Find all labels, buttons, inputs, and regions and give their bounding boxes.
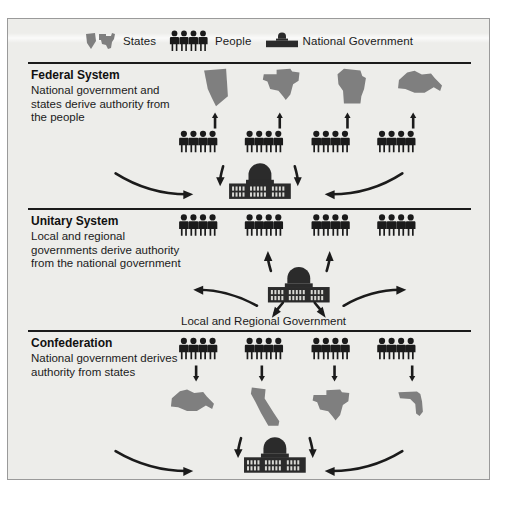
arrowhead-c2 <box>234 449 242 458</box>
section-title-confederation: Confederation <box>31 336 181 351</box>
state-newyork-conf <box>171 389 214 411</box>
arrowhead-1 <box>183 190 193 199</box>
arrow-people-to-state-3 <box>344 113 350 129</box>
arrow-states-to-national-1 <box>116 451 188 471</box>
arrow-people-to-national-1 <box>116 173 188 194</box>
state-florida-conf <box>398 391 423 416</box>
legend-item-people: People <box>170 30 251 52</box>
arrow-people-to-national-2 <box>220 166 223 181</box>
diagram-frame: States People <box>7 18 490 480</box>
section-description-confederation: National government derives authority fr… <box>31 352 181 379</box>
arrow-people-to-state-c1 <box>193 365 199 381</box>
state-nevada <box>204 69 228 107</box>
arrow-people-to-state-2 <box>277 113 283 129</box>
unitary-people-group-3 <box>312 214 350 236</box>
people-icon <box>170 30 210 52</box>
arrow-people-to-state-1 <box>212 113 218 129</box>
conf-people-group-3 <box>312 338 350 360</box>
arrow-people-to-national-4 <box>332 173 403 194</box>
arrowhead-u1 <box>264 251 272 261</box>
legend: States People <box>8 27 489 55</box>
arrow-states-to-national-4 <box>332 451 403 471</box>
legend-label-national-government: National Government <box>303 35 414 47</box>
legend-item-national-government: National Government <box>266 32 414 50</box>
arrowhead-c4 <box>325 467 335 476</box>
section-unitary-system: Unitary System Local and regional govern… <box>31 214 181 271</box>
local-regional-government-text: Local and Regional Government <box>181 315 346 327</box>
section-description-unitary: Local and regional governments derive au… <box>31 230 181 271</box>
arrow-national-to-local-mid-left <box>275 303 283 313</box>
conf-people-group-2 <box>245 338 283 360</box>
arrow-states-to-national-3 <box>310 438 313 453</box>
arrowhead-3 <box>294 177 302 186</box>
arrow-people-to-state-4 <box>410 113 416 129</box>
arrowhead-c3 <box>309 449 317 458</box>
legend-label-states: States <box>123 35 156 47</box>
figure-root: States People <box>0 0 513 508</box>
unitary-system-graphic <box>179 214 415 317</box>
arrowhead-u4 <box>396 286 406 295</box>
arrowhead-4 <box>325 190 335 199</box>
arrow-national-to-local-right <box>344 290 401 306</box>
national-government-federal <box>229 163 291 199</box>
national-government-confederation <box>244 437 306 473</box>
arrow-national-to-people-left <box>268 257 271 271</box>
section-confederation: Confederation National government derive… <box>31 336 181 379</box>
state-california-conf <box>251 387 279 425</box>
national-government-unitary <box>268 267 330 303</box>
arrow-national-to-local-mid-right <box>315 303 323 313</box>
arrow-states-to-national-2 <box>238 438 241 453</box>
arrowhead-u3 <box>193 286 203 295</box>
unitary-people-group-4 <box>377 214 415 236</box>
states-icon <box>84 31 118 51</box>
arrowhead-u2 <box>326 251 334 261</box>
arrowhead-2 <box>216 177 224 186</box>
people-group-1 <box>179 131 217 153</box>
conf-people-group-1 <box>179 338 217 360</box>
local-regional-government-label: Local and Regional Government <box>8 315 489 327</box>
legend-item-states: States <box>84 31 156 51</box>
section-federal-system: Federal System National government and s… <box>31 68 181 125</box>
people-group-2 <box>245 131 283 153</box>
arrow-people-to-state-c2 <box>259 365 265 381</box>
arrow-people-to-national-3 <box>295 166 298 181</box>
unitary-people-group-2 <box>245 214 283 236</box>
arrow-national-to-local-left <box>199 290 257 306</box>
state-minnesota <box>338 69 366 104</box>
section-divider-bottom <box>28 330 471 332</box>
state-texas-conf <box>313 389 350 420</box>
legend-label-people: People <box>215 35 251 47</box>
national-government-icon <box>266 32 298 50</box>
state-texas <box>263 69 300 100</box>
section-title-federal: Federal System <box>31 68 181 83</box>
conf-people-group-4 <box>377 338 415 360</box>
people-group-4 <box>377 131 415 153</box>
section-divider-middle <box>28 208 471 210</box>
people-group-3 <box>312 131 350 153</box>
arrow-people-to-state-c3 <box>331 365 337 381</box>
arrow-people-to-state-c4 <box>409 365 415 381</box>
section-divider-top <box>28 62 471 64</box>
state-newyork <box>398 71 442 93</box>
section-description-federal: National government and states derive au… <box>31 84 181 125</box>
section-title-unitary: Unitary System <box>31 214 181 229</box>
arrowhead-c1 <box>183 467 193 476</box>
arrow-national-to-people-right <box>327 257 330 271</box>
unitary-people-group-1 <box>179 214 217 236</box>
